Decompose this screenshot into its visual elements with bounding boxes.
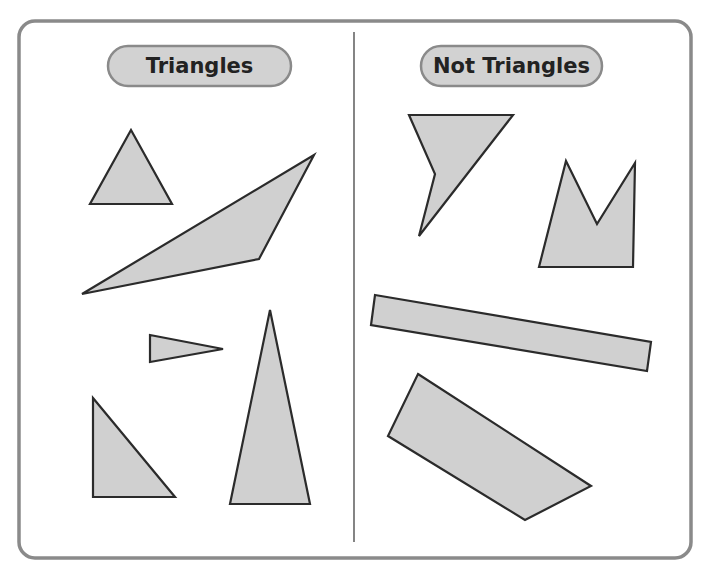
left-panel-header: Triangles — [108, 46, 291, 86]
sorting-diagram: Triangles Not Triangles — [0, 0, 712, 581]
not-triangles-label: Not Triangles — [433, 54, 590, 78]
right-panel-header: Not Triangles — [421, 46, 602, 86]
triangles-label: Triangles — [146, 54, 254, 78]
